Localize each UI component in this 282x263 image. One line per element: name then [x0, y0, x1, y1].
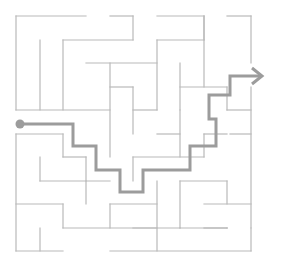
- maze-diagram: [0, 0, 282, 263]
- maze-canvas: [0, 0, 282, 263]
